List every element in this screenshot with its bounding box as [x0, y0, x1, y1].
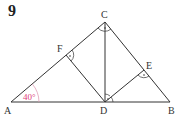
dot-E	[143, 74, 145, 76]
label-E: E	[146, 61, 152, 71]
label-F: F	[57, 44, 63, 54]
segment-AC	[11, 22, 105, 102]
right-angle-D-left	[105, 94, 110, 96]
label-D: D	[100, 106, 107, 116]
dot-C	[104, 27, 106, 29]
right-angle-F	[71, 50, 74, 61]
label-C: C	[101, 10, 108, 20]
triangle-diagram	[0, 0, 180, 120]
label-B: B	[168, 106, 175, 116]
segment-CB	[105, 22, 170, 102]
dot-F	[69, 55, 71, 57]
angle-label-A: 40°	[23, 92, 36, 102]
dot-D	[107, 98, 109, 100]
right-angle-D-right	[111, 97, 113, 102]
segment-DF	[66, 55, 105, 102]
label-A: A	[4, 106, 11, 116]
